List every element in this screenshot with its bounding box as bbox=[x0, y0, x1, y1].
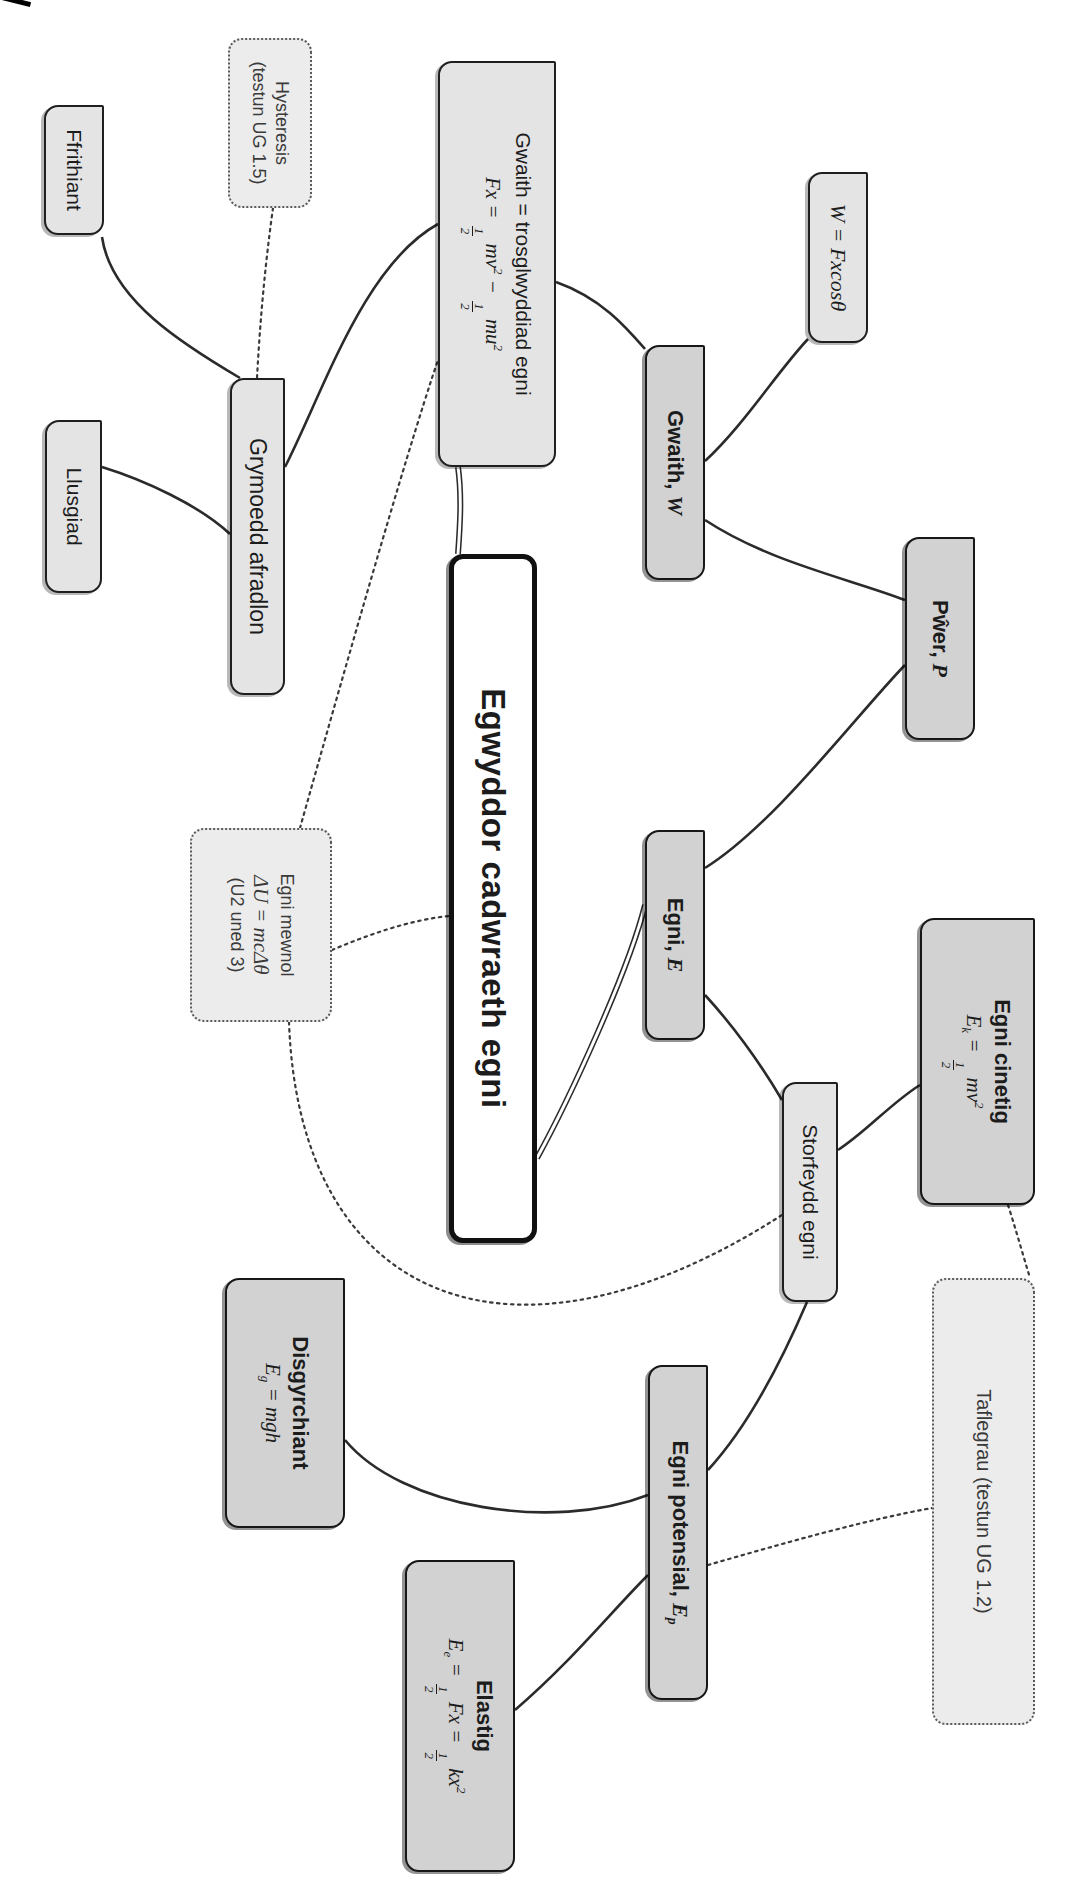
node-grymoedd: Grymoedd afradlon bbox=[230, 378, 285, 695]
edge-gwaith_w-pwer bbox=[705, 520, 905, 600]
node-disgyrchiant: DisgyrchiantEg = mgh bbox=[225, 1278, 345, 1528]
node-storfeydd: Storfeydd egni bbox=[782, 1082, 838, 1302]
node-gwaith_w-line-0: Gwaith,W bbox=[662, 410, 688, 515]
node-llusgiad-line-0: Llusgiad bbox=[61, 467, 86, 545]
edge-llusgiad-grymoedd bbox=[102, 467, 230, 534]
node-gwaith_w: Gwaith,W bbox=[645, 345, 705, 580]
node-elastig: ElastigEe = 12 Fx = 12 kx2 bbox=[405, 1560, 515, 1872]
edge-egni_e-pwer bbox=[705, 665, 905, 868]
node-w_fxcos-line-0: W = Fxcosθ bbox=[825, 204, 851, 312]
node-egni_e-symbol: E bbox=[663, 958, 688, 973]
node-taflegrau-line-0: Taflegrau (testun UG 1.2) bbox=[972, 1389, 996, 1614]
node-egni_potensial-line-0: Egni potensial,Ep bbox=[663, 1441, 692, 1625]
edge-root-egni_e bbox=[537, 905, 645, 1158]
node-w_fxcos: W = Fxcosθ bbox=[808, 172, 868, 343]
node-egni_potensial: Egni potensial,Ep bbox=[648, 1365, 708, 1700]
node-gwaith_formula-line-1: Fx = 12 mv2 − 12 mu2 bbox=[459, 177, 506, 351]
node-elastig-line-1: Ee = 12 Fx = 12 kx2 bbox=[423, 1639, 470, 1794]
node-egni_mewnol: Egni mewnolΔU = mcΔθ(U2 uned 3) bbox=[190, 828, 332, 1022]
node-egni_cinetig: Egni cinetigEk = 12 mv2 bbox=[920, 918, 1035, 1205]
node-pwer-symbol: P bbox=[928, 664, 953, 677]
edge-disgyrchiant-egni_potensial bbox=[345, 1440, 648, 1512]
edge-hysteresis-grymoedd bbox=[257, 208, 273, 378]
node-gwaith_w-symbol: W bbox=[663, 495, 688, 515]
edge-egni_e-storfeydd bbox=[705, 995, 782, 1100]
node-egni_potensial-symbol: Ep bbox=[668, 1603, 693, 1625]
edge-gwaith_w-w_fxcos bbox=[705, 339, 808, 461]
node-llusgiad: Llusgiad bbox=[45, 420, 102, 593]
node-pwer: Pŵer,P bbox=[905, 537, 975, 740]
node-disgyrchiant-line-1: Eg = mgh bbox=[257, 1363, 285, 1443]
node-storfeydd-line-0: Storfeydd egni bbox=[798, 1124, 823, 1259]
mindmap-page: Egwyddor cadwraeth egniGwaith = trosglwy… bbox=[0, 0, 1069, 1894]
node-root-line-0: Egwyddor cadwraeth egni bbox=[474, 688, 513, 1108]
node-egni_mewnol-line-2: (U2 uned 3) bbox=[225, 877, 246, 972]
node-egni_mewnol-line-0: Egni mewnol bbox=[275, 873, 296, 976]
node-taflegrau: Taflegrau (testun UG 1.2) bbox=[932, 1278, 1035, 1725]
node-gwaith_formula-line-0: Gwaith = trosglwyddiad egni bbox=[510, 132, 535, 395]
node-root: Egwyddor cadwraeth egni bbox=[449, 554, 537, 1243]
node-egni_cinetig-line-1: Ek = 12 mv2 bbox=[940, 1014, 987, 1108]
edge-egni_mewnol-gwaith_formula bbox=[300, 360, 438, 828]
edge-elastig-egni_potensial bbox=[515, 1575, 648, 1710]
edge-gwaith_formula-gwaith_w bbox=[556, 282, 645, 349]
node-ffrithiant-line-0: Ffrithiant bbox=[62, 129, 87, 211]
edge-ffrithiant-grymoedd bbox=[102, 237, 240, 378]
edge-egni_potensial-taflegrau bbox=[708, 1508, 932, 1565]
edge-egni_cinetig-taflegrau bbox=[1008, 1205, 1030, 1278]
node-grymoedd-line-0: Grymoedd afradlon bbox=[244, 438, 271, 635]
node-pwer-line-0: Pŵer,P bbox=[927, 600, 953, 677]
edge-root-egni_e bbox=[537, 905, 645, 1158]
mindmap-canvas: Egwyddor cadwraeth egniGwaith = trosglwy… bbox=[0, 0, 1069, 1894]
node-hysteresis-line-0: Hysteresis bbox=[271, 81, 292, 165]
node-elastig-line-0: Elastig bbox=[471, 1680, 497, 1752]
edge-egni_mewnol-root bbox=[332, 916, 449, 950]
node-disgyrchiant-line-0: Disgyrchiant bbox=[287, 1336, 313, 1469]
edge-storfeydd-egni_cinetig bbox=[838, 1085, 920, 1150]
node-hysteresis-line-1: (testun UG 1.5) bbox=[248, 61, 269, 184]
node-gwaith_formula: Gwaith = trosglwyddiad egniFx = 12 mv2 −… bbox=[438, 61, 556, 467]
node-egni_mewnol-line-1: ΔU = mcΔθ bbox=[249, 875, 274, 974]
node-egni_e-line-0: Egni,E bbox=[662, 898, 688, 972]
node-egni_cinetig-line-0: Egni cinetig bbox=[989, 999, 1015, 1124]
edge-storfeydd-egni_potensial bbox=[708, 1302, 807, 1470]
node-hysteresis: Hysteresis(testun UG 1.5) bbox=[228, 38, 312, 208]
node-egni_e: Egni,E bbox=[645, 830, 705, 1040]
node-ffrithiant: Ffrithiant bbox=[44, 105, 104, 235]
